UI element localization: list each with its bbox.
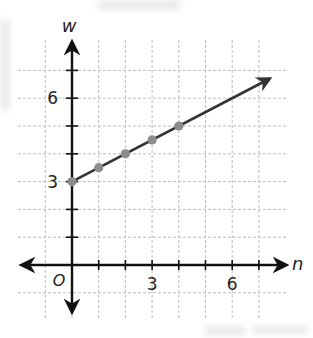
data-point [121, 149, 130, 158]
y-axis-label: w [62, 15, 77, 36]
origin-label: O [53, 271, 66, 290]
y-tick-label: 6 [47, 88, 58, 108]
background-smudge [0, 20, 10, 110]
background-smudge [252, 326, 307, 334]
x-tick-label: 3 [147, 274, 158, 294]
data-point [148, 135, 157, 144]
data-point [174, 121, 183, 130]
y-tick-label: 3 [47, 172, 58, 192]
axis-labels: 3636Onw [47, 15, 303, 294]
data-point [67, 177, 76, 186]
data-series [67, 79, 269, 186]
data-point [94, 163, 103, 172]
x-axis-label: n [292, 253, 303, 274]
background-smudge [205, 326, 245, 336]
x-tick-label: 6 [227, 274, 238, 294]
background-smudge [98, 0, 180, 10]
